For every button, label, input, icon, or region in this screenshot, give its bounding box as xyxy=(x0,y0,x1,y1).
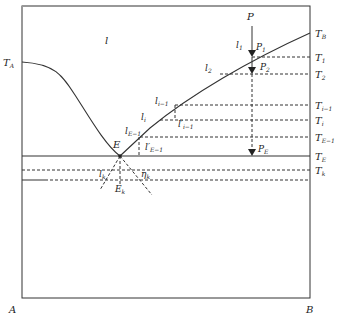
svg-text:TE−1: TE−1 xyxy=(315,132,335,144)
svg-text:PE: PE xyxy=(257,144,269,155)
svg-text:T2: T2 xyxy=(315,69,326,81)
svg-text:TB: TB xyxy=(315,28,327,40)
svg-text:lk: lk xyxy=(99,169,106,180)
liquidus-b xyxy=(120,33,310,156)
ta-label: TA xyxy=(3,57,15,69)
svg-text:TE: TE xyxy=(315,151,327,163)
svg-text:E: E xyxy=(112,139,121,150)
svg-text:li−1: li−1 xyxy=(155,96,169,107)
svg-text:Tk: Tk xyxy=(315,165,326,177)
svg-text:l′i−1: l′i−1 xyxy=(178,119,194,130)
svg-text:l1: l1 xyxy=(236,40,243,51)
svg-text:Ek: Ek xyxy=(114,184,126,195)
phase-diagram: l TA A B P P1 P2 PE E Ek l1 l2 li−1 li l… xyxy=(0,0,338,322)
svg-text:l′E−1: l′E−1 xyxy=(145,142,163,153)
svg-text:Ti−1: Ti−1 xyxy=(315,100,332,112)
svg-text:Ti: Ti xyxy=(315,115,324,127)
b-label: B xyxy=(305,304,313,315)
region-label: l xyxy=(105,35,108,46)
svg-text:li: li xyxy=(141,112,146,123)
svg-text:T1: T1 xyxy=(315,52,326,64)
svg-text:P2: P2 xyxy=(259,62,270,73)
a-label: A xyxy=(8,304,16,315)
liquidus-a xyxy=(22,62,120,156)
svg-text:lE−1: lE−1 xyxy=(125,126,141,137)
p-label: P xyxy=(246,11,254,22)
svg-text:P1: P1 xyxy=(255,42,266,53)
svg-text:ηk: ηk xyxy=(141,169,150,180)
svg-text:l2: l2 xyxy=(205,63,212,74)
